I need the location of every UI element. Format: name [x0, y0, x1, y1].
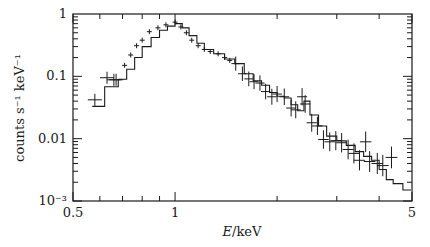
x-tick-labels: 0.515 — [63, 205, 416, 220]
model-step-line — [92, 24, 411, 190]
x-tick-label: 1 — [171, 205, 179, 220]
x-tick-label: 5 — [408, 205, 416, 220]
y-tick-label: 1 — [59, 6, 67, 21]
y-axis-title: counts s⁻¹ keV⁻¹ — [12, 54, 27, 162]
data-points-crosses — [88, 20, 398, 177]
axis-ticks — [73, 14, 412, 201]
x-tick-label: 0.5 — [63, 205, 84, 220]
y-tick-label: 0.1 — [46, 68, 67, 83]
spectrum-chart: 10.10.0110⁻³ 0.515 E/keV counts s⁻¹ keV⁻… — [0, 0, 430, 247]
y-tick-labels: 10.10.0110⁻³ — [38, 6, 67, 208]
x-axis-title: E/keV — [222, 224, 262, 239]
plot-frame — [73, 14, 412, 201]
y-tick-label: 0.01 — [38, 131, 67, 146]
